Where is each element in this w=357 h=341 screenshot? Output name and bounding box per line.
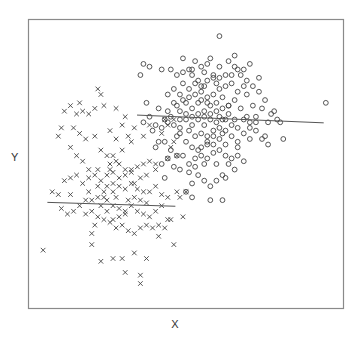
x-axis-label: X (171, 318, 179, 330)
scatter-chart: Y X (0, 0, 357, 341)
y-axis-label: Y (11, 151, 19, 163)
plot-frame (29, 20, 344, 309)
